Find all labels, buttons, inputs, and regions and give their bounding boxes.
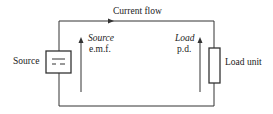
source-symbol bbox=[46, 51, 71, 73]
load-pd-label-line2: p.d. bbox=[177, 45, 191, 55]
load-unit-symbol bbox=[209, 48, 220, 83]
source-emf-label-line2: e.m.f. bbox=[89, 45, 111, 55]
source-emf-label-line1: Source bbox=[88, 34, 114, 44]
current-flow-arrow-icon bbox=[108, 19, 114, 24]
load-pd-label-line1: Load bbox=[175, 34, 195, 44]
load-unit-label: Load unit bbox=[225, 58, 262, 68]
emf-arrow-icon bbox=[79, 37, 84, 92]
pd-arrow-icon bbox=[198, 37, 203, 92]
source-label: Source bbox=[13, 57, 39, 67]
current-flow-label: Current flow bbox=[113, 7, 162, 17]
